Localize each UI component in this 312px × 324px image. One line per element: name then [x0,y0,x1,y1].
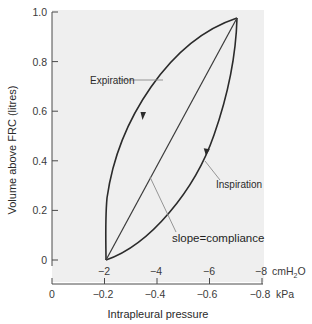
x-axis-title: Intrapleural pressure [108,308,209,320]
x-tick-cm-2: −2 [98,265,110,277]
y-tick-0: 0 [41,254,47,266]
y-axis-title: Volume above FRC (litres) [6,86,18,215]
y-tick-0.2: 0.2 [32,204,47,216]
x-tick-kpa-0.8: −0.8 [250,288,271,300]
y-tick-0.6: 0.6 [32,105,47,117]
y-tick-1.0: 1.0 [32,6,47,18]
x-tick-cm-8: −8 [255,265,267,277]
inspiration-label: Inspiration [216,179,262,190]
x-tick-cm-4: −4 [150,265,162,277]
y-tick-0.8: 0.8 [32,56,47,68]
y-axis: 1.0 0.8 0.6 0.4 0.2 0 Volume above FRC (… [6,6,58,266]
x-tick-kpa-0.4: −0.4 [145,288,166,300]
x-tick-kpa-0.2: −0.2 [93,288,114,300]
x-tick-kpa-0: 0 [49,288,55,300]
pressure-volume-chart: 1.0 0.8 0.6 0.4 0.2 0 Volume above FRC (… [0,0,312,324]
x-tick-cm-6: −6 [203,265,215,277]
slope-compliance-label: slope=compliance [172,232,264,244]
expiration-label: Expiration [90,75,134,86]
y-tick-0.4: 0.4 [32,155,47,167]
x-unit-kpa: kPa [276,288,294,300]
x-tick-kpa-0.6: −0.6 [197,288,218,300]
x-unit-cmh2o: cmH2O [272,265,306,279]
